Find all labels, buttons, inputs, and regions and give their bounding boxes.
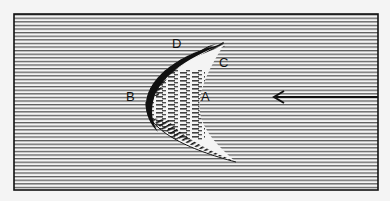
label-c: C [219, 55, 228, 70]
label-a: A [201, 89, 210, 104]
label-b: B [126, 89, 135, 104]
label-d: D [172, 36, 181, 51]
diagram-canvas: D C B A [0, 0, 390, 201]
